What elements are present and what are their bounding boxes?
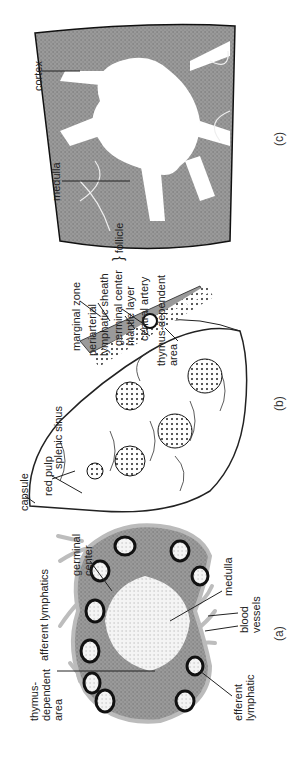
label-mantle-layer: mantle layer — [124, 286, 136, 346]
brace-icon: } — [110, 256, 126, 261]
panel-caption-c: (c) — [272, 132, 286, 146]
figure-canvas: thymus- dependent area afferent lymphati… — [0, 0, 293, 761]
label-efferent-lymphatic: efferent lymphatic — [232, 675, 256, 721]
label-follicle-wrap: }follicle — [112, 281, 125, 316]
label-central-artery: central artery — [138, 277, 150, 341]
label-thymus-dependent-area-a: thymus- dependent area — [28, 669, 64, 721]
label-cortex: cortex — [32, 61, 44, 91]
label-germinal-center-a: germinal center — [70, 534, 94, 576]
panel-caption-b: (b) — [272, 396, 286, 411]
label-splenic-sinus: splenic sinus — [30, 426, 42, 489]
label-blood-vessels: blood vessels — [238, 596, 262, 633]
label-medulla-a: medulla — [222, 557, 234, 596]
panel-caption-a: (a) — [272, 626, 286, 641]
label-follicle: follicle — [113, 223, 125, 254]
label-thymus-dependent-area-b: thymus-dependent area — [155, 275, 179, 366]
label-afferent-lymphatics: afferent lymphatics — [38, 569, 50, 661]
label-marginal-zone: marginal zone — [70, 282, 82, 351]
label-capsule: capsule — [18, 473, 30, 511]
thymus-panel — [35, 25, 235, 249]
label-medulla-c: medulla — [50, 162, 62, 201]
label-splenic-sinus-text: splenic sinus — [52, 406, 64, 469]
label-periarterial-sheath: periarterial lymphatic sheath — [86, 273, 110, 356]
